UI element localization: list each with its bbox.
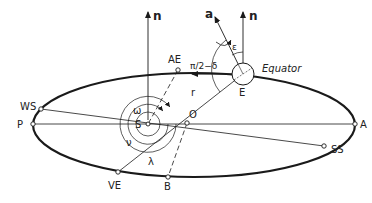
- point-s: [146, 122, 150, 126]
- label-axis: a: [205, 7, 213, 21]
- label-e: E: [239, 87, 245, 98]
- point-ws: [39, 107, 43, 111]
- point-b: [166, 175, 170, 179]
- label-r: r: [191, 87, 196, 98]
- label-epsilon: ε: [232, 42, 237, 52]
- label-o: O: [189, 109, 197, 120]
- label-ae: AE: [168, 54, 181, 65]
- solstice-line: [41, 109, 324, 146]
- label-p: P: [17, 119, 23, 130]
- dashed-line-ae: [148, 70, 178, 124]
- orbit-diagram: n n a AE VE WS SS P A S E O B r ε π/2−δ …: [0, 0, 372, 203]
- label-lambda: λ: [148, 156, 154, 167]
- dashed-line-b: [168, 123, 187, 177]
- point-ss: [322, 144, 326, 148]
- label-s: S: [135, 119, 141, 130]
- label-ss: SS: [331, 144, 344, 155]
- point-ae: [176, 68, 180, 72]
- label-n-sun: n: [153, 9, 162, 23]
- label-declination: π/2−δ: [190, 61, 218, 71]
- point-p: [31, 122, 35, 126]
- point-a: [353, 122, 357, 126]
- point-ve: [116, 170, 120, 174]
- label-equator: Equator: [262, 63, 302, 74]
- label-n-earth: n: [249, 9, 258, 23]
- label-b: B: [164, 181, 171, 192]
- label-ws: WS: [20, 101, 36, 112]
- label-a: A: [360, 119, 367, 130]
- label-omega: ω: [133, 105, 141, 116]
- label-ve: VE: [108, 180, 121, 191]
- point-o: [185, 121, 189, 125]
- label-nu: ν: [126, 137, 132, 148]
